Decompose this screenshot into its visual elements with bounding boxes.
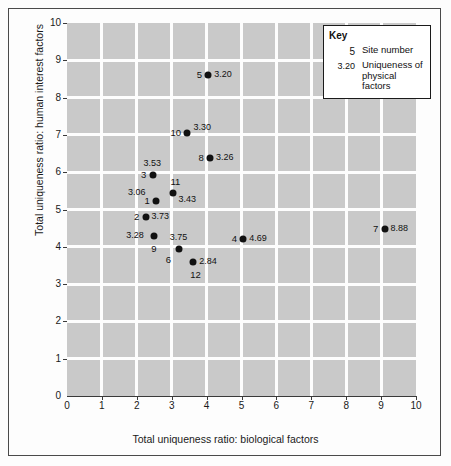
data-point-value-label: 2.84 bbox=[199, 257, 217, 266]
x-tick-mark bbox=[207, 396, 208, 400]
data-point-site-label: 4 bbox=[232, 234, 237, 244]
legend-symbol-uniqueness: 3.20 bbox=[329, 60, 355, 71]
data-point[interactable] bbox=[240, 235, 247, 242]
y-tick-label: 7 bbox=[39, 130, 61, 140]
data-point[interactable] bbox=[207, 155, 214, 162]
x-tick-label: 6 bbox=[264, 401, 288, 411]
gridline-horizontal bbox=[67, 245, 416, 248]
data-point-site-label: 7 bbox=[373, 224, 378, 234]
data-point-value-label: 3.06 bbox=[128, 188, 146, 197]
y-tick-mark bbox=[63, 98, 67, 99]
gridline-horizontal bbox=[67, 208, 416, 211]
data-point[interactable] bbox=[190, 258, 197, 265]
gridline-horizontal bbox=[67, 283, 416, 286]
data-point-value-label: 3.30 bbox=[193, 123, 211, 132]
legend-row-site: 5 Site number bbox=[329, 45, 425, 57]
x-tick-label: 5 bbox=[230, 401, 254, 411]
x-tick-label: 1 bbox=[90, 401, 114, 411]
gridline-horizontal bbox=[67, 320, 416, 323]
y-tick-label: 9 bbox=[39, 55, 61, 65]
data-point-value-label: 8.88 bbox=[391, 224, 409, 233]
data-point[interactable] bbox=[151, 232, 158, 239]
y-tick-label: 4 bbox=[39, 242, 61, 252]
x-tick-label: 0 bbox=[55, 401, 79, 411]
data-point-site-label: 10 bbox=[170, 128, 181, 138]
y-tick-label: 6 bbox=[39, 167, 61, 177]
data-point-value-label: 3.26 bbox=[216, 153, 234, 162]
data-point-site-label: 1 bbox=[144, 196, 149, 206]
x-tick-mark bbox=[137, 396, 138, 400]
figure-panel: Total uniqueness ratio: human interest f… bbox=[8, 8, 441, 456]
y-tick-mark bbox=[63, 23, 67, 24]
x-tick-mark bbox=[172, 396, 173, 400]
data-point-site-label: 3 bbox=[141, 170, 146, 180]
y-tick-mark bbox=[63, 210, 67, 211]
legend-text-uniqueness: Uniqueness of physical factors bbox=[355, 60, 425, 92]
data-point-value-label: 3.53 bbox=[144, 159, 162, 168]
x-tick-label: 4 bbox=[195, 401, 219, 411]
data-point-value-label: 4.69 bbox=[249, 234, 267, 243]
data-point-site-label: 12 bbox=[190, 270, 201, 280]
data-point[interactable] bbox=[142, 213, 149, 220]
legend-text-site: Site number bbox=[355, 45, 413, 56]
legend-row-uniqueness: 3.20 Uniqueness of physical factors bbox=[329, 60, 425, 92]
y-tick-label: 3 bbox=[39, 279, 61, 289]
x-axis-title: Total uniqueness ratio: biological facto… bbox=[9, 433, 442, 445]
gridline-horizontal bbox=[67, 133, 416, 136]
y-tick-label: 5 bbox=[39, 205, 61, 215]
y-tick-mark bbox=[63, 359, 67, 360]
x-tick-label: 10 bbox=[404, 401, 428, 411]
data-point[interactable] bbox=[175, 246, 182, 253]
data-point[interactable] bbox=[170, 189, 177, 196]
y-tick-mark bbox=[63, 284, 67, 285]
data-point-site-label: 11 bbox=[170, 177, 180, 187]
data-point[interactable] bbox=[205, 72, 212, 79]
data-point-site-label: 2 bbox=[134, 212, 139, 222]
data-point[interactable] bbox=[184, 130, 191, 137]
y-tick-mark bbox=[63, 135, 67, 136]
data-point-site-label: 9 bbox=[151, 244, 156, 254]
x-tick-mark bbox=[102, 396, 103, 400]
data-point-site-label: 5 bbox=[197, 70, 202, 80]
y-tick-mark bbox=[63, 60, 67, 61]
data-point-value-label: 3.28 bbox=[126, 231, 144, 240]
legend-key-box: Key 5 Site number 3.20 Uniqueness of phy… bbox=[323, 25, 431, 99]
y-tick-label: 2 bbox=[39, 316, 61, 326]
data-point-value-label: 3.73 bbox=[152, 212, 170, 221]
gridline-horizontal bbox=[67, 171, 416, 174]
y-tick-label: 1 bbox=[39, 354, 61, 364]
y-tick-label: 8 bbox=[39, 93, 61, 103]
x-tick-mark bbox=[346, 396, 347, 400]
y-tick-label: 10 bbox=[39, 18, 61, 28]
legend-title: Key bbox=[329, 30, 425, 41]
data-point[interactable] bbox=[381, 226, 388, 233]
x-tick-label: 2 bbox=[125, 401, 149, 411]
x-tick-label: 9 bbox=[369, 401, 393, 411]
x-tick-label: 8 bbox=[334, 401, 358, 411]
x-tick-mark bbox=[416, 396, 417, 400]
data-point-value-label: 3.20 bbox=[214, 70, 232, 79]
gridline-horizontal bbox=[67, 357, 416, 360]
x-tick-mark bbox=[276, 396, 277, 400]
data-point[interactable] bbox=[149, 172, 156, 179]
x-tick-mark bbox=[311, 396, 312, 400]
data-point-site-label: 6 bbox=[166, 255, 171, 265]
data-point-site-label: 8 bbox=[199, 153, 204, 163]
y-tick-mark bbox=[63, 247, 67, 248]
data-point[interactable] bbox=[152, 198, 159, 205]
data-point-value-label: 3.43 bbox=[178, 195, 196, 204]
data-point-value-label: 3.75 bbox=[170, 233, 188, 242]
y-tick-label: 0 bbox=[39, 391, 61, 401]
y-axis-title: Total uniqueness ratio: human interest f… bbox=[33, 0, 45, 310]
x-tick-label: 3 bbox=[160, 401, 184, 411]
x-tick-mark bbox=[381, 396, 382, 400]
legend-symbol-site: 5 bbox=[329, 45, 355, 57]
x-tick-label: 7 bbox=[299, 401, 323, 411]
y-tick-mark bbox=[63, 321, 67, 322]
x-tick-mark bbox=[242, 396, 243, 400]
y-tick-mark bbox=[63, 172, 67, 173]
